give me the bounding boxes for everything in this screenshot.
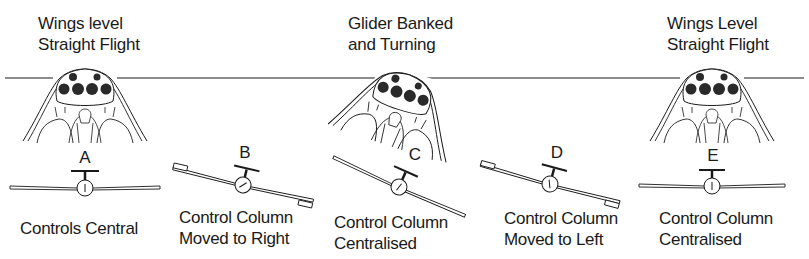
glider-front-view-icon	[639, 170, 785, 194]
stage-c-title-line1: Glider Banked	[348, 13, 453, 34]
stage-d-caption-line2: Moved to Left	[504, 229, 618, 250]
stage-a-caption-line1: Controls Central	[20, 218, 138, 239]
stage-e-caption: Control Column Centralised	[659, 208, 773, 250]
stage-b-caption: Control Column Moved to Right	[179, 207, 293, 249]
stage-e-title-line1: Wings Level	[667, 13, 769, 34]
stage-letter-e: E	[703, 147, 723, 165]
stage-c-title-line2: and Turning	[348, 34, 453, 55]
stage-e-title-line2: Straight Flight	[667, 34, 769, 55]
stage-a-title: Wings level Straight Flight	[38, 13, 140, 55]
stage-d-caption-line1: Control Column	[504, 208, 618, 229]
stage-letter-c: C	[405, 146, 425, 164]
stage-letter-b: B	[235, 144, 255, 162]
stage-letter-d: D	[547, 144, 567, 162]
stage-e-caption-line2: Centralised	[659, 229, 773, 250]
stage-d-caption: Control Column Moved to Left	[504, 208, 618, 250]
stage-letter-a: A	[75, 149, 95, 167]
stage-c-caption: Control Column Centralised	[334, 212, 448, 254]
stage-a-title-line2: Straight Flight	[38, 34, 140, 55]
stage-e-title: Wings Level Straight Flight	[667, 13, 769, 55]
stage-a-title-line1: Wings level	[38, 13, 140, 34]
stage-c-caption-line2: Centralised	[334, 233, 448, 254]
stage-e-caption-line1: Control Column	[659, 208, 773, 229]
stage-b-caption-line1: Control Column	[179, 207, 293, 228]
glider-turn-diagram: Wings level Straight Flight Glider Banke…	[0, 0, 809, 259]
glider-front-view-icon	[10, 171, 160, 196]
stage-a-caption: Controls Central	[20, 218, 138, 239]
stage-b-caption-line2: Moved to Right	[179, 228, 293, 249]
cockpit-view-icon	[327, 53, 469, 165]
stage-c-caption-line1: Control Column	[334, 212, 448, 233]
stage-c-title: Glider Banked and Turning	[348, 13, 453, 55]
